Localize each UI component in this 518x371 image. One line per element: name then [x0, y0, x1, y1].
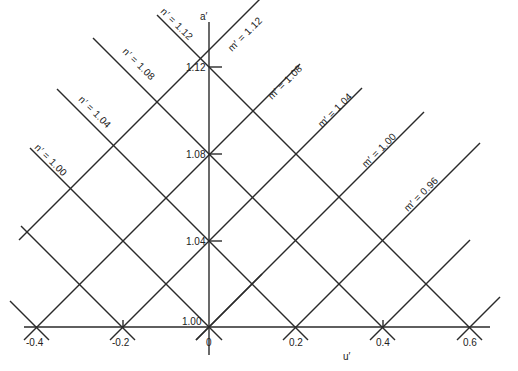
x-tick-label: 0.6 [463, 337, 477, 348]
n-label-1.04: n′ = 1.04 [77, 94, 114, 131]
n-label-1.00: n′ = 1.00 [33, 142, 70, 179]
n-line-extra-1 [21, 226, 135, 340]
x-tick-label: 0.2 [289, 337, 303, 348]
m-label-0.96: m′ = 0.96 [402, 175, 441, 214]
characteristic-diagram: 1.12 1.08 1.04 1.00 -0.4 -0.2 0 0.2 0.4 … [0, 0, 518, 371]
m-line-extra-2 [457, 297, 500, 340]
m-label-1.08: m′ = 1.08 [266, 63, 305, 102]
y-tick-label: 1.12 [186, 62, 206, 73]
m-label-1.00: m′ = 1.00 [360, 131, 399, 170]
y-tick-label: 1.00 [182, 316, 202, 327]
x-axis-label: u′ [343, 351, 351, 362]
y-tick-label: 1.04 [186, 236, 206, 247]
m-line-0.96 [283, 143, 480, 340]
x-tick-label: 0.4 [376, 337, 390, 348]
n-label-1.08: n′ = 1.08 [121, 46, 158, 83]
m-line-1.08 [24, 64, 300, 340]
m-line-extra-1 [370, 240, 470, 340]
x-tick-label: -0.4 [26, 337, 44, 348]
x-tick-label: 0 [206, 337, 212, 348]
n-line-1.08 [93, 38, 395, 340]
y-axis-label: a′ [200, 11, 208, 22]
x-tick-label: -0.2 [112, 337, 130, 348]
m-label-1.04: m′ = 1.04 [316, 91, 355, 130]
m-label-1.12: m′ = 1.12 [226, 15, 265, 54]
m-line-1.12 [19, 0, 262, 240]
y-tick-label: 1.08 [186, 149, 206, 160]
n-label-1.12: n′ = 1.12 [159, 6, 196, 43]
